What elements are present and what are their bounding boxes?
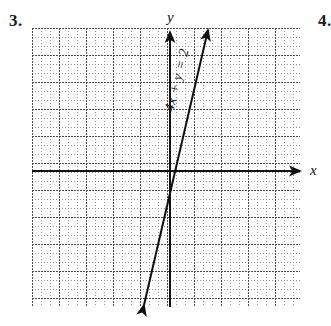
plot-overlay <box>0 0 331 326</box>
worksheet-page: 3. 4. y x 4x + y = 2 <box>0 0 331 326</box>
x-axis-label: x <box>310 163 317 178</box>
y-axis-label: y <box>167 10 174 25</box>
